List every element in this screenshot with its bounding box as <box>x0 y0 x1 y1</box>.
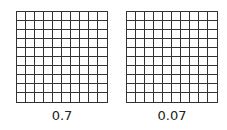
grid-cell <box>26 84 35 93</box>
grid-cell <box>89 12 98 21</box>
grid-cell <box>71 12 80 21</box>
grid-cell <box>181 30 190 39</box>
grid-cell <box>145 66 154 75</box>
grid-cell <box>154 84 163 93</box>
grid-cell <box>62 21 71 30</box>
grid-cell <box>71 75 80 84</box>
grid-cell <box>208 48 217 57</box>
grid-cell <box>154 12 163 21</box>
grid-cell <box>181 12 190 21</box>
grid-cell <box>172 75 181 84</box>
grid-cell <box>127 66 136 75</box>
grid-cell <box>154 21 163 30</box>
grid-cell <box>35 48 44 57</box>
grid-cell <box>89 75 98 84</box>
grid-cell <box>71 57 80 66</box>
grid-cell <box>53 30 62 39</box>
grid-cell <box>62 39 71 48</box>
grid-cell <box>145 21 154 30</box>
grid-cell <box>145 93 154 102</box>
grid-cell <box>145 57 154 66</box>
grid-cell <box>181 48 190 57</box>
grid-cell <box>163 30 172 39</box>
grid-cell <box>154 93 163 102</box>
grid-cell <box>199 75 208 84</box>
grid-cell <box>190 84 199 93</box>
hundred-grid-left <box>16 11 108 103</box>
grid-cell <box>154 48 163 57</box>
grid-cell <box>53 75 62 84</box>
grid-cell <box>89 30 98 39</box>
grid-cell <box>208 84 217 93</box>
grid-cell <box>89 39 98 48</box>
grid-cell <box>35 75 44 84</box>
grid-cell <box>199 30 208 39</box>
grid-cell <box>44 66 53 75</box>
grid-cell <box>127 12 136 21</box>
grid-cell <box>35 93 44 102</box>
grid-cell <box>163 84 172 93</box>
grid-cell <box>163 93 172 102</box>
grid-cell <box>35 57 44 66</box>
grid-cell <box>208 21 217 30</box>
grid-cell <box>17 12 26 21</box>
grid-cell <box>44 84 53 93</box>
grid-cell <box>145 12 154 21</box>
hundred-grid-right <box>126 11 218 103</box>
grid-cell <box>190 30 199 39</box>
grid-cell <box>208 66 217 75</box>
grid-cell <box>199 21 208 30</box>
grid-cell <box>98 75 107 84</box>
grid-cell <box>53 21 62 30</box>
grid-cell <box>53 93 62 102</box>
grid-cell <box>62 84 71 93</box>
grid-cell <box>53 12 62 21</box>
grid-cell <box>136 66 145 75</box>
grid-cell <box>80 12 89 21</box>
grid-cell <box>98 21 107 30</box>
grid-cell <box>208 30 217 39</box>
grid-cell <box>35 12 44 21</box>
grid-cell <box>17 75 26 84</box>
grid-cell <box>53 39 62 48</box>
grid-cell <box>71 30 80 39</box>
grid-cell <box>136 30 145 39</box>
grid-cell <box>26 57 35 66</box>
grid-cell <box>145 48 154 57</box>
grid-cell <box>98 84 107 93</box>
grid-cell <box>127 84 136 93</box>
grid-cell <box>136 93 145 102</box>
grid-cell <box>127 57 136 66</box>
grid-cell <box>89 48 98 57</box>
grid-cell <box>181 66 190 75</box>
grid-cell <box>62 75 71 84</box>
grid-cell <box>17 39 26 48</box>
grid-cell <box>145 84 154 93</box>
grid-cell <box>98 93 107 102</box>
grid-cell <box>172 48 181 57</box>
grid-cell <box>136 39 145 48</box>
grid-cell <box>208 93 217 102</box>
grid-cell <box>71 66 80 75</box>
grid-cell <box>145 39 154 48</box>
grid-cell <box>163 21 172 30</box>
grid-cell <box>98 48 107 57</box>
grid-cell <box>163 48 172 57</box>
grid-cell <box>154 39 163 48</box>
grid-cell <box>98 12 107 21</box>
grid-cell <box>17 48 26 57</box>
grid-cell <box>190 21 199 30</box>
grid-cell <box>208 12 217 21</box>
grid-cell <box>136 48 145 57</box>
grid-cell <box>172 30 181 39</box>
grid-cell <box>172 93 181 102</box>
grid-cell <box>199 84 208 93</box>
grid-cell <box>17 93 26 102</box>
grid-cell <box>44 30 53 39</box>
grid-cell <box>80 30 89 39</box>
grid-cell <box>62 66 71 75</box>
grid-cell <box>172 84 181 93</box>
grid-cell <box>154 30 163 39</box>
grid-cell <box>98 39 107 48</box>
grid-cell <box>35 30 44 39</box>
